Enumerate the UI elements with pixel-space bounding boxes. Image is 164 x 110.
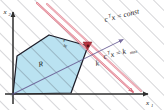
origin-point (12, 93, 15, 96)
optimum-point (87, 45, 90, 48)
diagram-canvas: x 2 x 1 c T x = const c T x = k max R k (0, 0, 164, 110)
linear-programming-figure: x 2 x 1 c T x = const c T x = k max R k (0, 0, 164, 110)
x-axis-label-subscript: 1 (151, 103, 153, 108)
